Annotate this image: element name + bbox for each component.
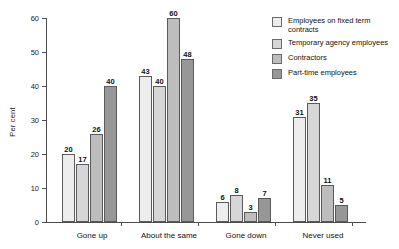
bar-value-label: 5 xyxy=(339,197,343,205)
x-tick-sep-4 xyxy=(352,222,353,226)
y-tick-label-30: 30 xyxy=(31,117,39,125)
bar-value-label: 17 xyxy=(78,156,86,164)
bar-never-used-fixed-term[interactable]: 31 xyxy=(293,117,306,222)
bar-value-label: 48 xyxy=(183,51,191,59)
bar-value-label: 40 xyxy=(106,78,114,86)
bar-never-used-agency[interactable]: 35 xyxy=(307,103,320,222)
y-tick-30 xyxy=(42,120,47,121)
y-tick-60 xyxy=(42,18,47,19)
bar-value-label: 26 xyxy=(92,126,100,134)
bar-never-used-contractors[interactable]: 11 xyxy=(321,185,334,222)
x-tick-sep-2 xyxy=(198,222,199,226)
y-tick-label-50: 50 xyxy=(31,49,39,57)
legend-item-contractors[interactable]: Contractors xyxy=(272,54,397,64)
bar-value-label: 11 xyxy=(324,177,332,185)
bar-value-label: 6 xyxy=(220,194,224,202)
y-tick-10 xyxy=(42,188,47,189)
plot-area: Per cent 0 10 20 30 40 50 60 20 17 xyxy=(46,18,260,223)
bar-group-gone-up: 20 17 26 40 xyxy=(62,18,122,222)
legend-swatch-icon xyxy=(272,39,282,49)
bar-group-about-the-same: 43 40 60 48 xyxy=(139,18,199,222)
bar-gone-up-fixed-term[interactable]: 20 xyxy=(62,154,75,222)
bar-about-the-same-part-time[interactable]: 48 xyxy=(181,59,194,222)
y-tick-label-40: 40 xyxy=(31,83,39,91)
x-tick-sep-1 xyxy=(121,222,122,226)
bar-gone-down-agency[interactable]: 8 xyxy=(230,195,243,222)
y-tick-label-60: 60 xyxy=(31,15,39,23)
bar-gone-up-contractors[interactable]: 26 xyxy=(90,134,103,222)
bar-value-label: 7 xyxy=(262,190,266,198)
y-axis-title: Per cent xyxy=(8,107,17,137)
y-tick-label-0: 0 xyxy=(35,219,39,227)
bar-gone-down-contractors[interactable]: 3 xyxy=(244,212,257,222)
legend-label: Temporary agency employees xyxy=(288,39,388,48)
y-tick-20 xyxy=(42,154,47,155)
bar-gone-down-fixed-term[interactable]: 6 xyxy=(216,202,229,222)
x-axis-label-never-used: Never used xyxy=(303,231,344,240)
bar-about-the-same-fixed-term[interactable]: 43 xyxy=(139,76,152,222)
bar-value-label: 20 xyxy=(64,146,72,154)
bar-value-label: 8 xyxy=(234,187,238,195)
bar-gone-down-part-time[interactable]: 7 xyxy=(258,198,271,222)
bar-value-label: 3 xyxy=(248,204,252,212)
x-axis-label-about-the-same: About the same xyxy=(141,231,197,240)
legend-swatch-icon xyxy=(272,54,282,64)
chart-legend: Employees on fixed term contracts Tempor… xyxy=(272,17,397,84)
x-axis-label-gone-up: Gone up xyxy=(77,231,108,240)
y-tick-0 xyxy=(42,222,47,223)
x-tick-sep-3 xyxy=(275,222,276,226)
bar-gone-up-part-time[interactable]: 40 xyxy=(104,86,117,222)
legend-swatch-icon xyxy=(272,17,282,27)
legend-label: Employees on fixed term contracts xyxy=(288,17,393,34)
y-tick-label-10: 10 xyxy=(31,185,39,193)
legend-item-part-time[interactable]: Part-time employees xyxy=(272,69,397,79)
legend-label: Contractors xyxy=(288,54,327,63)
x-axis-line xyxy=(46,222,366,223)
bar-never-used-part-time[interactable]: 5 xyxy=(335,205,348,222)
bar-about-the-same-contractors[interactable]: 60 xyxy=(167,18,180,222)
bar-value-label: 40 xyxy=(155,78,163,86)
bar-value-label: 43 xyxy=(141,68,149,76)
y-tick-50 xyxy=(42,52,47,53)
bar-value-label: 60 xyxy=(169,10,177,18)
legend-item-agency[interactable]: Temporary agency employees xyxy=(272,39,397,49)
bar-gone-up-agency[interactable]: 17 xyxy=(76,164,89,222)
y-tick-label-20: 20 xyxy=(31,151,39,159)
legend-swatch-icon xyxy=(272,69,282,79)
legend-label: Part-time employees xyxy=(288,69,357,78)
legend-item-fixed-term[interactable]: Employees on fixed term contracts xyxy=(272,17,397,34)
bar-value-label: 35 xyxy=(309,95,317,103)
x-axis-label-gone-down: Gone down xyxy=(226,231,267,240)
y-tick-40 xyxy=(42,86,47,87)
bar-about-the-same-agency[interactable]: 40 xyxy=(153,86,166,222)
bar-value-label: 31 xyxy=(295,109,303,117)
chart-canvas: Per cent 0 10 20 30 40 50 60 20 17 xyxy=(0,0,399,249)
bar-group-gone-down: 6 8 3 7 xyxy=(216,18,276,222)
